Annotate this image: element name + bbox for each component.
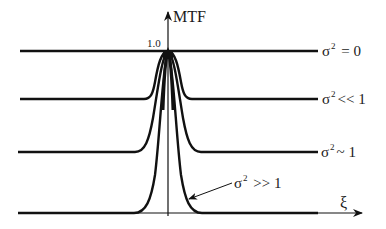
relation: >> 1	[250, 175, 282, 191]
label-sigma-large: σ2 >> 1	[234, 173, 282, 192]
peak-blob	[163, 51, 173, 59]
mtf-diagram	[0, 0, 386, 229]
exponent: 2	[331, 41, 336, 51]
exponent: 2	[331, 89, 336, 99]
relation: << 1	[338, 91, 366, 107]
sigma-symbol: σ	[234, 175, 242, 191]
sigma-symbol: σ	[321, 144, 329, 160]
exponent: 2	[243, 173, 248, 183]
sigma-large-leader-arrow	[189, 183, 232, 199]
y-tick-label: 1.0	[147, 37, 161, 49]
y-axis-label: MTF	[173, 8, 206, 26]
sigma-symbol: σ	[322, 43, 330, 59]
label-sigma-zero: σ2 = 0	[322, 41, 361, 60]
exponent: 2	[330, 142, 335, 152]
label-sigma-small: σ2<< 1	[322, 89, 366, 108]
sigma-symbol: σ	[322, 91, 330, 107]
relation: ~ 1	[337, 144, 356, 160]
relation: = 0	[338, 43, 361, 59]
x-axis-label: ξ	[340, 194, 347, 212]
label-sigma-one: σ2~ 1	[321, 142, 356, 161]
